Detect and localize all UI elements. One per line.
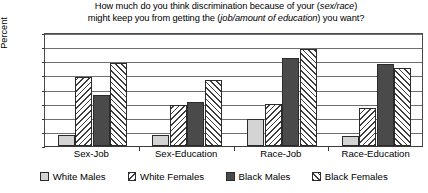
y-tick-mark-40 (42, 91, 46, 92)
chart-title: How much do you think discrimination bec… (46, 1, 406, 24)
bar-chart: How much do you think discrimination bec… (0, 0, 428, 193)
y-tick-mark-20 (42, 119, 46, 120)
bar-race-education-black-females (394, 68, 411, 146)
legend-swatch-white-females-icon (128, 172, 137, 181)
x-tick-label-sex-education: Sex-Education (139, 148, 234, 159)
legend-swatch-white-males-icon (40, 172, 49, 181)
bar-race-job-white-females (265, 104, 282, 146)
bar-race-education-black-males (377, 64, 394, 146)
y-tick-mark-30 (42, 105, 46, 106)
legend-item-black-males[interactable]: Black Males (226, 171, 290, 182)
y-tick-mark-60 (42, 62, 46, 63)
bar-sex-job-black-females (110, 63, 127, 146)
plot-area: 80706050403020100 (44, 33, 423, 146)
legend-label-white-males: White Males (53, 171, 106, 182)
bar-sex-job-black-males (93, 95, 110, 146)
bar-sex-job-white-males (58, 135, 75, 146)
chart-title-line2-post: ) you want? (317, 13, 364, 23)
chart-title-line2-pre: might keep you from getting the ( (88, 13, 221, 23)
bar-sex-education-black-females (205, 80, 222, 146)
chart-title-line1-pre: How much do you think discrimination bec… (95, 1, 320, 11)
legend-item-white-females[interactable]: White Females (128, 171, 204, 182)
bar-sex-education-white-males (152, 135, 169, 146)
legend-label-white-females: White Females (140, 171, 204, 182)
legend-item-white-males[interactable]: White Males (40, 171, 105, 182)
y-tick-mark-80 (42, 34, 46, 35)
legend-swatch-black-males-icon (226, 172, 235, 181)
legend-item-black-females[interactable]: Black Females (312, 171, 387, 182)
y-tick-mark-10 (42, 133, 46, 134)
chart-title-line2-italic: job/amount of education (220, 13, 317, 23)
legend-label-black-males: Black Males (239, 171, 291, 182)
bar-sex-job-white-females (75, 77, 92, 146)
bar-group-sex-education (152, 34, 222, 146)
bar-group-race-education (342, 34, 412, 146)
y-tick-mark-70 (42, 48, 46, 49)
bar-race-education-white-females (359, 108, 376, 146)
x-tick-label-race-education: Race-Education (328, 148, 423, 159)
bar-race-job-black-males (282, 58, 299, 146)
y-axis-label: Percent (0, 3, 9, 63)
x-tick-label-race-job: Race-Job (234, 148, 329, 159)
y-tick-mark-50 (42, 76, 46, 77)
legend-swatch-black-females-icon (312, 172, 321, 181)
bar-race-job-white-males (247, 119, 264, 146)
chart-title-line1-italic: sex/race (320, 1, 354, 11)
x-tick-label-sex-job: Sex-Job (44, 148, 139, 159)
legend-label-black-females: Black Females (325, 171, 388, 182)
chart-legend: White MalesWhite FemalesBlack MalesBlack… (0, 171, 428, 182)
chart-title-line1-post: ) (354, 1, 357, 11)
bar-group-sex-job (58, 34, 128, 146)
bar-group-race-job (247, 34, 317, 146)
bar-sex-education-black-males (187, 102, 204, 146)
bar-race-job-black-females (300, 49, 317, 146)
bar-sex-education-white-females (170, 105, 187, 146)
